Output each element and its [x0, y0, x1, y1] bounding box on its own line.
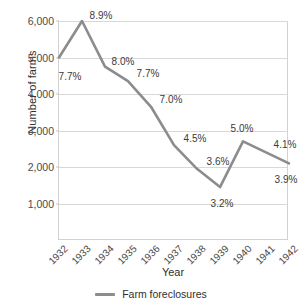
- series-line-farm-foreclosures: [59, 21, 289, 240]
- data-point-label: 8.9%: [90, 10, 113, 21]
- y-tick-label: 5,000: [28, 52, 54, 64]
- y-tick-label: 6,000: [28, 15, 54, 27]
- data-point-label: 3.6%: [207, 155, 230, 166]
- data-point-label: 3.9%: [275, 174, 298, 185]
- data-point-label: 3.2%: [211, 198, 234, 209]
- data-point-label: 8.0%: [112, 55, 135, 66]
- y-tick-label: 1,000: [28, 198, 54, 210]
- chart-legend: Farm foreclosures: [0, 288, 302, 300]
- legend-label-farm-foreclosures: Farm foreclosures: [122, 288, 207, 300]
- data-point-label: 4.5%: [184, 133, 207, 144]
- data-point-label: 7.7%: [59, 70, 82, 81]
- data-point-label: 4.1%: [274, 139, 297, 150]
- legend-swatch-farm-foreclosures: [95, 293, 115, 296]
- x-axis-title: Year: [58, 266, 288, 278]
- data-point-label: 5.0%: [231, 123, 254, 134]
- y-tick-label: 3,000: [28, 125, 54, 137]
- y-tick-label: 2,000: [28, 161, 54, 173]
- data-point-label: 7.0%: [160, 93, 183, 104]
- farm-foreclosures-line-chart: Number of farms 1,0002,0003,0004,0005,00…: [0, 0, 302, 305]
- y-tick-label: 4,000: [28, 88, 54, 100]
- data-point-label: 7.7%: [137, 68, 160, 79]
